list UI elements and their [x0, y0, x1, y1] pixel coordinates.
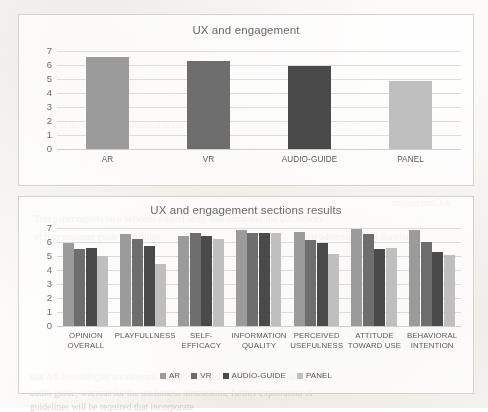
x-axis-category-label: PANEL — [360, 155, 461, 165]
bar — [432, 252, 443, 326]
bar — [317, 243, 328, 326]
legend-label: VR — [200, 371, 211, 380]
legend-item: AR — [160, 371, 180, 380]
bar — [97, 256, 108, 326]
bar — [247, 233, 258, 326]
bar — [63, 243, 74, 326]
chart-title: UX and engagement — [19, 24, 473, 36]
gridline: 7 — [57, 228, 461, 229]
y-axis-tick-label: 4 — [47, 265, 52, 275]
bar — [386, 248, 397, 326]
bar — [389, 81, 431, 149]
chart-ux-and-engagement-sections-results: UX and engagement sections results 01234… — [18, 196, 474, 394]
x-axis-category-label: ATTITUDE TOWARD USE — [346, 331, 404, 350]
y-axis-tick-label: 7 — [47, 46, 52, 56]
bar — [409, 230, 420, 326]
y-axis-tick-label: 3 — [47, 102, 52, 112]
y-axis-tick-label: 7 — [47, 223, 52, 233]
y-axis-tick-label: 2 — [47, 293, 52, 303]
y-axis-tick-label: 4 — [47, 88, 52, 98]
y-axis-tick-label: 2 — [47, 116, 52, 126]
bar — [236, 230, 247, 326]
bar — [178, 236, 189, 326]
legend-item: VR — [191, 371, 211, 380]
legend-swatch-icon — [297, 373, 303, 379]
bar — [132, 239, 143, 327]
y-axis-tick-label: 1 — [47, 130, 52, 140]
bar — [213, 239, 224, 326]
y-axis-tick-label: 5 — [47, 251, 52, 261]
y-axis-tick-label: 3 — [47, 279, 52, 289]
x-axis-category-label: OPINION OVERALL — [57, 331, 115, 350]
bar — [288, 66, 330, 149]
x-axis-category-label: SELF-EFFICACY — [172, 331, 230, 350]
bar — [190, 233, 201, 326]
bar — [444, 255, 455, 326]
x-axis-category-label: AUDIO-GUIDE — [259, 155, 360, 165]
x-axis-category-label: PERCEIVED USEFULNESS — [288, 331, 346, 350]
chart-title: UX and engagement sections results — [19, 204, 473, 216]
bar — [328, 254, 339, 326]
legend-swatch-icon — [191, 373, 197, 379]
bar — [187, 61, 229, 149]
bar — [421, 242, 432, 326]
chart-legend: ARVRAUDIO-GUIDEPANEL — [19, 371, 473, 380]
bleed-text: guidelines will be required that incorpo… — [30, 402, 194, 412]
bar — [74, 249, 85, 326]
bar — [305, 240, 316, 326]
bar — [294, 232, 305, 326]
y-axis-tick-label: 0 — [47, 321, 52, 331]
bar — [259, 233, 270, 326]
legend-swatch-icon — [223, 373, 229, 379]
y-axis-tick-label: 1 — [47, 307, 52, 317]
y-axis-tick-label: 5 — [47, 74, 52, 84]
y-axis-tick-label: 6 — [47, 237, 52, 247]
legend-label: AR — [169, 371, 180, 380]
legend-label: PANEL — [306, 371, 332, 380]
y-axis-tick-label: 0 — [47, 144, 52, 154]
plot-area: 01234567ARVRAUDIO-GUIDEPANEL — [57, 51, 461, 149]
legend-item: AUDIO-GUIDE — [223, 371, 286, 380]
bar — [363, 234, 374, 326]
x-axis-category-label: AR — [57, 155, 158, 165]
legend-swatch-icon — [160, 373, 166, 379]
legend-label: AUDIO-GUIDE — [232, 371, 286, 380]
bar — [374, 249, 385, 326]
bar — [271, 233, 282, 326]
gridline: 7 — [57, 51, 461, 52]
x-axis-category-label: INFORMATION QUALITY — [230, 331, 288, 350]
plot-area: 01234567OPINION OVERALLPLAYFULLNESSSELF-… — [57, 228, 461, 326]
gridline: 0 — [57, 326, 461, 327]
bar — [351, 229, 362, 326]
legend-item: PANEL — [297, 371, 332, 380]
y-axis-tick-label: 6 — [47, 60, 52, 70]
chart-ux-and-engagement: UX and engagement 01234567ARVRAUDIO-GUID… — [18, 14, 474, 186]
bar — [201, 236, 212, 326]
bar — [86, 57, 128, 149]
x-axis-category-label: VR — [158, 155, 259, 165]
bar — [155, 264, 166, 326]
x-axis-category-label: PLAYFULLNESS — [115, 331, 173, 341]
bar — [86, 248, 97, 326]
bar — [120, 234, 131, 326]
bar — [144, 246, 155, 326]
gridline: 0 — [57, 149, 461, 150]
x-axis-category-label: BEHAVIORAL INTENTION — [403, 331, 461, 350]
